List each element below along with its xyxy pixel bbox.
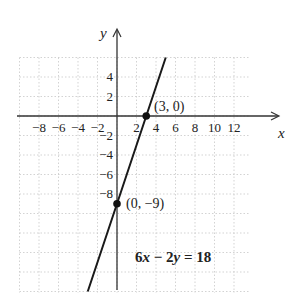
x-tick-label: −6 — [52, 120, 66, 135]
y-tick-label: 2 — [107, 89, 114, 104]
x-tick-label: −4 — [71, 120, 85, 135]
y-tick-label: −8 — [99, 186, 113, 201]
x-tick-label: 12 — [228, 120, 241, 135]
x-axis-label: x — [277, 125, 285, 141]
point-label-y-intercept: (0, −9) — [126, 196, 165, 212]
intercept-point-dot — [113, 200, 121, 208]
coordinate-plane: x y −8−6−4−22468101242−2−4−6−8 (3, 0) (0… — [0, 0, 285, 305]
y-axis-label: y — [98, 25, 107, 41]
y-tick-label: −2 — [99, 128, 113, 143]
y-tick-label: 4 — [107, 69, 114, 84]
y-tick-label: −6 — [99, 167, 113, 182]
x-tick-label: 4 — [153, 120, 160, 135]
y-tick-label: −4 — [99, 147, 113, 162]
x-tick-label: 6 — [172, 120, 179, 135]
x-tick-label: 10 — [208, 120, 221, 135]
point-label-x-intercept: (3, 0) — [154, 99, 185, 115]
x-tick-label: −8 — [32, 120, 46, 135]
equation-label: 6x − 2y = 18 — [135, 249, 211, 265]
x-tick-label: 2 — [133, 120, 140, 135]
x-tick-label: 8 — [192, 120, 199, 135]
intercept-point-dot — [142, 112, 150, 120]
